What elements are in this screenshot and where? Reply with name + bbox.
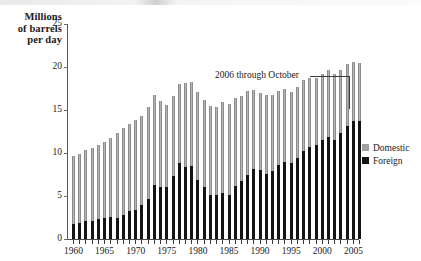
bar-foreign-1994 — [283, 162, 286, 239]
x-axis-tick-mark — [129, 240, 130, 244]
x-axis-tick-mark — [104, 240, 105, 244]
x-axis-tick-mark — [235, 240, 236, 244]
bar-foreign-1965 — [103, 218, 106, 240]
x-axis-tick-mark — [216, 240, 217, 244]
x-axis-tick-mark — [260, 240, 261, 244]
x-axis-tick-label: 1965 — [88, 246, 122, 256]
legend-item-domestic[interactable]: Domestic — [362, 141, 409, 154]
annotation-leader-horizontal — [310, 76, 350, 77]
bar-foreign-1996 — [296, 158, 299, 239]
bar-foreign-1986 — [234, 186, 237, 239]
y-axis-title: Millions of barrels per day — [0, 11, 62, 46]
bar-foreign-1981 — [203, 187, 206, 239]
x-axis-tick-mark — [123, 240, 124, 244]
x-axis-tick-mark — [347, 240, 348, 244]
y-axis-tick-label: 25 — [38, 18, 62, 28]
x-axis-tick-mark — [297, 240, 298, 244]
annotation-label: 2006 through October — [215, 70, 299, 80]
x-axis-tick-mark — [328, 240, 329, 244]
x-axis-tick-mark — [173, 240, 174, 244]
x-axis-tick-mark — [98, 240, 99, 244]
bar-foreign-2006 — [358, 121, 361, 239]
x-axis-tick-mark — [204, 240, 205, 244]
bar-foreign-2001 — [327, 137, 330, 239]
x-axis-tick-mark — [340, 240, 341, 244]
bar-foreign-1963 — [91, 221, 94, 239]
bar-foreign-1960 — [72, 224, 75, 239]
x-axis-tick-mark — [141, 240, 142, 244]
bar-foreign-1979 — [190, 166, 193, 239]
x-axis-tick-label: 1990 — [243, 246, 277, 256]
bar-foreign-1966 — [109, 217, 112, 239]
x-axis-tick-mark — [272, 240, 273, 244]
x-axis-tick-mark — [79, 240, 80, 244]
x-axis-tick-mark — [278, 240, 279, 244]
legend-swatch-foreign-icon — [362, 157, 369, 164]
clipped-top-band — [0, 0, 421, 5]
bar-foreign-1995 — [290, 163, 293, 239]
x-axis-tick-label: 1970 — [119, 246, 153, 256]
x-axis-tick-label: 2000 — [305, 246, 339, 256]
x-axis-tick-mark — [210, 240, 211, 244]
bar-foreign-2002 — [333, 140, 336, 239]
bar-foreign-1974 — [159, 187, 162, 239]
bar-foreign-1968 — [122, 215, 125, 239]
bar-foreign-1984 — [221, 193, 224, 239]
legend-item-foreign[interactable]: Foreign — [362, 154, 409, 167]
y-axis-tick-label: 15 — [38, 104, 62, 114]
x-axis-tick-mark — [284, 240, 285, 244]
x-axis-tick-mark — [359, 240, 360, 244]
bar-foreign-1993 — [277, 165, 280, 239]
bar-foreign-1971 — [140, 205, 143, 239]
y-axis-tick-label: 10 — [38, 147, 62, 157]
x-axis-tick-mark — [353, 240, 354, 244]
bar-foreign-1988 — [246, 175, 249, 239]
bar-foreign-2000 — [321, 140, 324, 239]
bar-foreign-1985 — [228, 195, 231, 239]
x-axis-tick-mark — [117, 240, 118, 244]
y-axis-tick-label: 20 — [38, 61, 62, 71]
bar-foreign-1976 — [172, 176, 175, 239]
bar-foreign-1977 — [178, 163, 181, 239]
x-axis-tick-label: 2005 — [336, 246, 370, 256]
x-axis-tick-mark — [85, 240, 86, 244]
bar-foreign-2005 — [352, 121, 355, 239]
bar-foreign-1970 — [134, 210, 137, 239]
bar-foreign-1990 — [259, 170, 262, 239]
legend-swatch-domestic-icon — [362, 144, 369, 151]
y-axis-tick-mark — [64, 239, 68, 240]
x-axis-tick-label: 1980 — [181, 246, 215, 256]
bar-foreign-1997 — [302, 151, 305, 239]
bar-foreign-1989 — [252, 169, 255, 239]
bar-foreign-1998 — [308, 147, 311, 239]
x-axis-tick-mark — [253, 240, 254, 244]
bar-foreign-1967 — [116, 218, 119, 240]
x-axis-tick-label: 1975 — [150, 246, 184, 256]
legend-label-domestic: Domestic — [373, 143, 409, 153]
x-axis-tick-mark — [291, 240, 292, 244]
x-axis-tick-label: 1985 — [212, 246, 246, 256]
x-axis-tick-mark — [148, 240, 149, 244]
x-axis-tick-mark — [135, 240, 136, 244]
x-axis-tick-mark — [229, 240, 230, 244]
bar-foreign-1980 — [196, 180, 199, 239]
x-axis-tick-mark — [222, 240, 223, 244]
bar-foreign-1992 — [271, 171, 274, 239]
y-axis-title-line-3: per day — [0, 34, 62, 46]
x-axis-tick-mark — [73, 240, 74, 244]
bar-foreign-1973 — [153, 185, 156, 239]
x-axis-tick-mark — [334, 240, 335, 244]
x-axis-tick-mark — [316, 240, 317, 244]
bar-foreign-1969 — [128, 211, 131, 239]
legend-label-foreign: Foreign — [373, 156, 403, 166]
x-axis-tick-label: 1960 — [57, 246, 91, 256]
bar-foreign-1987 — [240, 181, 243, 239]
bar-foreign-1972 — [147, 199, 150, 239]
x-axis-tick-label: 1995 — [274, 246, 308, 256]
x-axis-tick-mark — [110, 240, 111, 244]
x-axis-tick-mark — [166, 240, 167, 244]
x-axis-tick-mark — [185, 240, 186, 244]
x-axis-tick-mark — [247, 240, 248, 244]
bar-foreign-2003 — [339, 133, 342, 239]
x-axis-tick-mark — [191, 240, 192, 244]
